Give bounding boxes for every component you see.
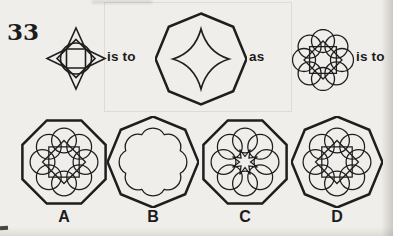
scan-corner-mark — [0, 226, 8, 231]
answer-option-a[interactable]: A — [18, 116, 110, 228]
analogy-figure-star-circle — [44, 25, 108, 92]
answer-option-c[interactable]: C — [199, 116, 291, 228]
option-a-label: A — [18, 209, 110, 225]
option-c-figure-icon — [199, 116, 291, 208]
rosette-icon — [292, 29, 354, 91]
option-d-label: D — [291, 209, 383, 225]
scan-smudge — [92, 0, 152, 4]
star-circle-icon — [44, 25, 108, 92]
relation-label-2: as — [249, 50, 264, 64]
option-b-label: B — [107, 209, 199, 225]
analogy-figure-octagon-star — [155, 12, 247, 106]
answer-option-b[interactable]: B — [107, 116, 199, 228]
option-a-figure-icon — [18, 116, 110, 208]
octagon-sparkle-icon — [155, 12, 247, 106]
relation-label-3: is to — [356, 50, 385, 64]
question-number: 33 — [7, 20, 39, 43]
scanned-puzzle-page: 33 is to as — [0, 0, 393, 236]
scan-bottom-shade — [0, 227, 393, 236]
option-d-figure-icon — [291, 116, 383, 208]
analogy-figure-rosette — [292, 29, 354, 91]
answer-option-d[interactable]: D — [291, 116, 383, 228]
relation-label-1: is to — [107, 50, 136, 64]
option-b-figure-icon — [107, 116, 199, 208]
option-c-label: C — [199, 209, 291, 225]
